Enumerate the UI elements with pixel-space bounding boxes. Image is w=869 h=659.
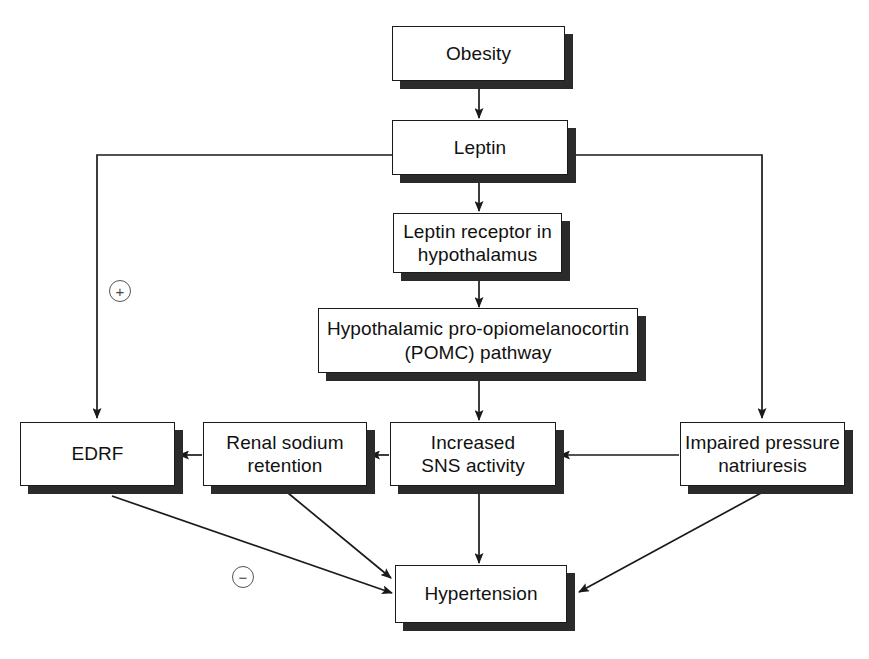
node-hypertension[interactable]: Hypertension xyxy=(395,565,567,623)
node-edrf[interactable]: EDRF xyxy=(20,422,175,486)
minus-sign-icon: − xyxy=(232,566,254,588)
node-hypertension-label: Hypertension xyxy=(424,582,537,605)
node-leptin-label: Leptin xyxy=(454,136,506,159)
node-impaired-pressure-natriuresis[interactable]: Impaired pressure natriuresis xyxy=(680,422,845,486)
minus-sign-symbol: − xyxy=(239,570,248,585)
node-leptin[interactable]: Leptin xyxy=(392,120,568,175)
node-renal-sodium-retention[interactable]: Renal sodium retention xyxy=(203,422,367,486)
edge-renal-hypertension xyxy=(288,493,391,578)
node-pomc-pathway[interactable]: Hypothalamic pro-opiomelanocortin (POMC)… xyxy=(318,308,638,373)
node-renal-sodium-retention-label-line1: Renal sodium xyxy=(226,431,343,454)
node-impaired-pressure-natriuresis-label-line1: Impaired pressure xyxy=(685,431,840,454)
node-increased-sns-activity-label-line1: Increased xyxy=(431,431,515,454)
node-edrf-label: EDRF xyxy=(71,442,123,465)
node-increased-sns-activity[interactable]: Increased SNS activity xyxy=(390,422,556,486)
edge-natriuresis-hypertension xyxy=(579,492,763,592)
node-pomc-pathway-label-line2: (POMC) pathway xyxy=(404,341,551,364)
node-increased-sns-activity-label-line2: SNS activity xyxy=(421,454,525,477)
node-leptin-receptor-label-line1: Leptin receptor in xyxy=(403,220,552,243)
node-obesity-label: Obesity xyxy=(446,42,511,65)
plus-sign-icon: + xyxy=(109,280,131,302)
node-obesity[interactable]: Obesity xyxy=(392,26,565,81)
plus-sign-symbol: + xyxy=(116,284,125,299)
flowchart-diagram: Obesity Leptin Leptin receptor in hypoth… xyxy=(0,0,869,659)
node-leptin-receptor-label-line2: hypothalamus xyxy=(418,243,538,266)
node-leptin-receptor[interactable]: Leptin receptor in hypothalamus xyxy=(393,213,562,273)
node-renal-sodium-retention-label-line2: retention xyxy=(248,454,323,477)
node-pomc-pathway-label-line1: Hypothalamic pro-opiomelanocortin xyxy=(327,317,629,340)
node-impaired-pressure-natriuresis-label-line2: natriuresis xyxy=(718,454,807,477)
